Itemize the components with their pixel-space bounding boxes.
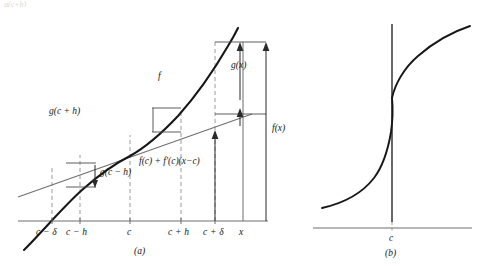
annotation-g-x: g(x) — [231, 61, 246, 71]
panel-a-curve-label: f — [158, 72, 161, 82]
annotation-g-c-minus-h: g(c − h) — [100, 168, 131, 178]
panel-b-graph — [313, 24, 472, 232]
caption-panel-a: (a) — [134, 247, 145, 257]
axis-label-c-plus-h: c + h — [168, 228, 189, 238]
axis-label-c: c — [127, 228, 131, 238]
function-curve-f — [24, 28, 238, 250]
annotation-tangent-expression: f(c) + f′(c)(x−c) — [139, 157, 200, 167]
figure-container: g(c+h) — [0, 0, 480, 269]
bracket-gx-lower-arrow-head — [237, 108, 244, 117]
panel-b-label-c: c — [389, 234, 393, 244]
bracket-fx-arrow-head — [263, 42, 270, 51]
bracket-fx-lower-arrow-head — [212, 130, 219, 139]
axis-label-x: x — [239, 228, 243, 238]
annotation-g-c-plus-h: g(c + h) — [49, 107, 80, 117]
axis-label-c-plus-delta: c + δ — [203, 228, 224, 238]
tangent-line — [18, 114, 252, 197]
bracket-gx-arrow-head — [237, 42, 244, 51]
axis-label-c-minus-delta: c − δ — [36, 228, 57, 238]
axis-label-c-minus-h: c − h — [66, 228, 87, 238]
panel-b-curve — [322, 26, 470, 208]
annotation-f-x: f(x) — [272, 124, 285, 134]
caption-panel-b: (b) — [385, 249, 396, 259]
